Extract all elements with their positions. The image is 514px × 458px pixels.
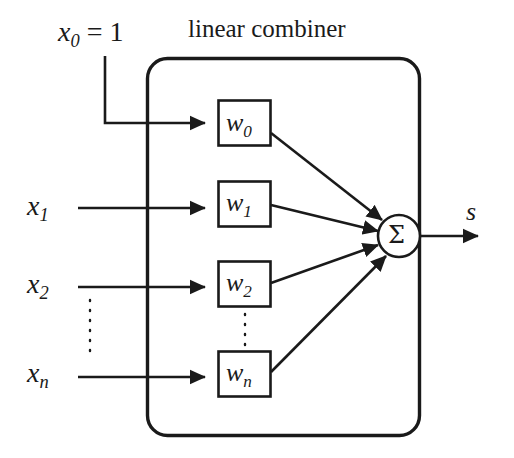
weight-label-w2: w2	[226, 270, 252, 296]
input-label-x1: x1	[27, 192, 49, 220]
weight-subscript-w0: 0	[243, 122, 252, 141]
bias-input-line	[105, 56, 205, 123]
weight-label-wn: wn	[226, 360, 252, 386]
weight-subscript-w1: 1	[243, 202, 252, 221]
bias-input-label: x0 = 1	[58, 18, 123, 46]
input-subscript-x1: 1	[39, 205, 48, 225]
weight-label-w1: w1	[226, 190, 252, 216]
input-variable-x1: x	[27, 190, 39, 221]
link-w0-to-sum	[271, 133, 382, 220]
bias-input-equals: = 1	[80, 16, 124, 47]
weight-subscript-w2: 2	[243, 282, 252, 301]
weight-variable-w2: w	[226, 268, 243, 297]
linear-combiner-diagram: linear combiner x0 = 1 x1 x2 xn w0 w1 w2…	[0, 0, 514, 458]
weight-subscript-wn: n	[243, 372, 252, 391]
input-variable-xn: x	[27, 357, 39, 388]
weight-variable-wn: w	[226, 358, 243, 387]
input-subscript-x2: 2	[39, 283, 48, 303]
weight-label-w0: w0	[226, 110, 252, 136]
diagram-canvas	[0, 0, 514, 458]
weight-variable-w0: w	[226, 108, 243, 137]
link-w2-to-sum	[271, 245, 378, 283]
input-label-xn: xn	[27, 359, 49, 387]
diagram-title: linear combiner	[188, 16, 346, 41]
input-subscript-xn: n	[39, 372, 48, 392]
output-label: s	[466, 199, 476, 225]
link-w1-to-sum	[271, 205, 378, 231]
weight-variable-w1: w	[226, 188, 243, 217]
link-wn-to-sum	[271, 256, 386, 372]
linear-combiner-boundary	[148, 59, 420, 436]
bias-input-variable: x	[58, 16, 70, 47]
input-variable-x2: x	[27, 268, 39, 299]
bias-input-subscript: 0	[70, 31, 79, 51]
input-label-x2: x2	[27, 270, 49, 298]
summation-symbol: Σ	[388, 223, 405, 247]
